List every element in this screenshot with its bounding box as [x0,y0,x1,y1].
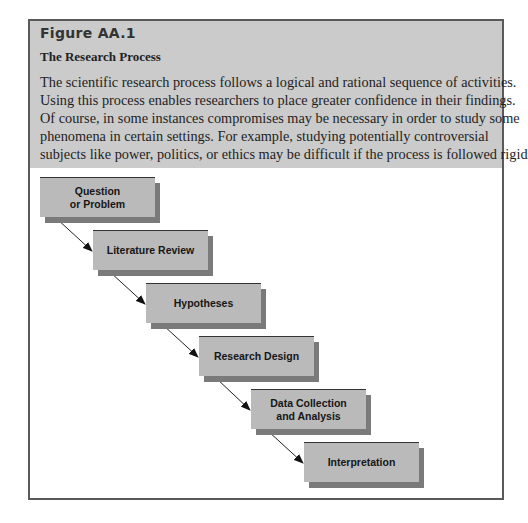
step-literature-review: Literature Review [93,230,208,270]
step-label: Research Design [214,350,299,363]
arrow-icon [268,431,303,463]
step-question-or-problem: Question or Problem [40,177,155,217]
step-label: Literature Review [107,244,195,257]
step-label: Hypotheses [174,297,234,310]
step-hypotheses: Hypotheses [146,283,261,323]
step-label: Data Collection and Analysis [270,397,346,423]
step-box: Question or Problem [40,177,155,217]
step-data-collection-and-analysis: Data Collection and Analysis [251,389,366,429]
arrow-icon [57,219,92,251]
flow-arrows [0,0,528,523]
research-process-diagram: Question or Problem Literature Review Hy… [0,0,528,523]
step-box: Literature Review [93,230,208,270]
arrow-icon [216,378,250,410]
step-box: Interpretation [304,442,419,482]
step-research-design: Research Design [199,336,314,376]
step-label: Question or Problem [70,185,125,211]
step-box: Research Design [199,336,314,376]
step-box: Hypotheses [146,283,261,323]
arrow-icon [163,325,198,357]
arrow-icon [110,272,145,304]
step-label: Interpretation [328,456,396,469]
step-box: Data Collection and Analysis [251,389,366,429]
step-interpretation: Interpretation [304,442,419,482]
